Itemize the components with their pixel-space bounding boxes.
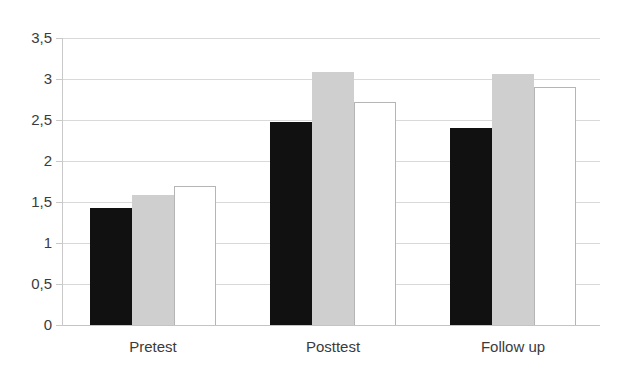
y-axis-tick-label: 1 bbox=[0, 235, 52, 250]
y-axis-tick bbox=[56, 325, 62, 326]
bar bbox=[492, 74, 534, 325]
y-axis-line bbox=[62, 38, 63, 326]
x-axis-tick-label: Pretest bbox=[60, 339, 246, 354]
y-axis-tick-label: 2 bbox=[0, 153, 52, 168]
x-axis-tick-label: Posttest bbox=[240, 339, 426, 354]
bar-chart: 00,511,522,533,5 PretestPosttestFollow u… bbox=[0, 0, 640, 377]
bar bbox=[174, 186, 216, 325]
x-axis-tick-label: Follow up bbox=[420, 339, 606, 354]
y-axis-tick bbox=[56, 202, 62, 203]
y-axis-tick-label: 3 bbox=[0, 71, 52, 86]
bar-group bbox=[450, 38, 576, 325]
y-axis-tick-label: 0,5 bbox=[0, 276, 52, 291]
y-axis-tick bbox=[56, 38, 62, 39]
y-axis-tick-label: 2,5 bbox=[0, 112, 52, 127]
gridline bbox=[62, 325, 600, 326]
y-axis-labels: 00,511,522,533,5 bbox=[0, 0, 52, 377]
bar bbox=[312, 72, 354, 325]
y-axis-tick bbox=[56, 79, 62, 80]
bar bbox=[450, 128, 492, 325]
bar bbox=[354, 102, 396, 325]
y-axis-tick bbox=[56, 161, 62, 162]
y-axis-tick-label: 1,5 bbox=[0, 194, 52, 209]
bar-group bbox=[90, 38, 216, 325]
bar-group bbox=[270, 38, 396, 325]
bar bbox=[534, 87, 576, 325]
y-axis-tick-label: 3,5 bbox=[0, 30, 52, 45]
x-axis-labels: PretestPosttestFollow up bbox=[0, 339, 640, 369]
y-axis-tick-label: 0 bbox=[0, 317, 52, 332]
y-axis-tick bbox=[56, 284, 62, 285]
bar bbox=[90, 208, 132, 325]
bar bbox=[132, 195, 174, 325]
y-axis-tick bbox=[56, 243, 62, 244]
y-axis-tick bbox=[56, 120, 62, 121]
plot-area bbox=[62, 38, 600, 325]
bar bbox=[270, 122, 312, 325]
